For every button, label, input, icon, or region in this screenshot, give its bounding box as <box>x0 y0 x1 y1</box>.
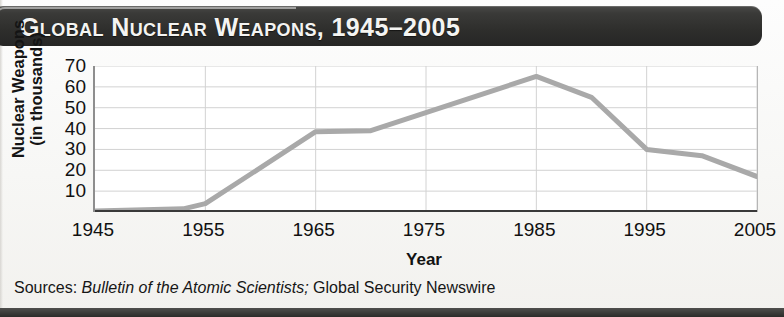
x-tick-label: 1985 <box>499 220 569 239</box>
bottom-rule <box>0 308 784 317</box>
x-tick-label: 2005 <box>720 220 784 239</box>
x-tick-label: 1965 <box>279 220 349 239</box>
plot-area <box>93 66 758 212</box>
title-banner: Global Nuclear Weapons, 1945–2005 <box>0 6 762 46</box>
source-note: Sources: Bulletin of the Atomic Scientis… <box>14 279 495 297</box>
x-tick-label: 1995 <box>610 220 680 239</box>
x-gridlines <box>205 66 757 212</box>
chart-title: Global Nuclear Weapons, 1945–2005 <box>20 13 460 42</box>
y-axis-title-line2: (in thousands) <box>28 20 46 158</box>
source-prefix: Sources: <box>14 279 77 296</box>
y-axis-title-line1: Nuclear Weapons <box>10 20 28 158</box>
x-axis-title: Year <box>93 250 755 270</box>
y-tick-label: 10 <box>40 181 86 200</box>
x-tick-label: 1975 <box>389 220 459 239</box>
source-secondary: Global Security Newswire <box>313 279 495 296</box>
x-tick-label: 1955 <box>168 220 238 239</box>
x-tick-label: 1945 <box>58 220 128 239</box>
source-publication: Bulletin of the Atomic Scientists; <box>82 279 309 296</box>
y-axis-title: Nuclear Weapons (in thousands) <box>0 9 57 169</box>
chart-canvas <box>95 66 757 212</box>
chart-figure: Global Nuclear Weapons, 1945–2005 Nuclea… <box>0 0 784 317</box>
